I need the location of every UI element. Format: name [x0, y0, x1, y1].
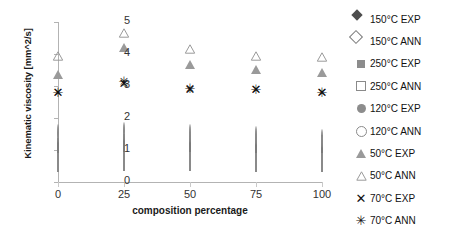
legend-label: 250°C ANN: [370, 81, 421, 92]
data-point: [119, 28, 130, 38]
marker-circle-open: [255, 126, 257, 145]
legend-marker: ✕: [352, 192, 370, 205]
data-point: [317, 52, 328, 62]
legend-marker: [352, 37, 370, 47]
legend-item[interactable]: 150°C ANN: [352, 30, 452, 52]
marker-star: ✳: [53, 85, 64, 100]
y-tick-label: 0: [100, 174, 130, 186]
data-point: ✳: [53, 86, 64, 99]
marker-star: ✳: [251, 82, 262, 97]
legend-marker: [352, 167, 370, 185]
y-tick-label: 2: [100, 110, 130, 122]
x-tick: [256, 182, 257, 187]
legend-label: 70°C ANN: [370, 215, 416, 226]
legend-item[interactable]: 120°C ANN: [352, 120, 452, 142]
marker-square-open: [57, 153, 59, 172]
legend-label: 150°C ANN: [370, 36, 421, 47]
legend-label: 50°C EXP: [370, 148, 415, 159]
marker-circle-filled: [357, 104, 366, 113]
chart-legend: 150°C EXP150°C ANN250°C EXP250°C ANN120°…: [352, 8, 452, 232]
data-point: [185, 44, 196, 54]
x-axis-title: composition percentage: [58, 205, 322, 216]
legend-marker: [352, 81, 370, 91]
legend-marker: [352, 149, 370, 158]
legend-marker: [352, 60, 370, 68]
marker-diamond-filled: [351, 10, 362, 21]
x-tick-label: 25: [104, 188, 144, 200]
legend-item[interactable]: 250°C EXP: [352, 53, 452, 75]
marker-square-filled: [357, 60, 365, 68]
x-tick-label: 75: [236, 188, 276, 200]
marker-triangle-open: [251, 47, 262, 64]
marker-triangle-open: [356, 167, 367, 185]
x-tick-label: 100: [302, 188, 342, 200]
legend-label: 70°C EXP: [370, 193, 415, 204]
legend-marker: [352, 126, 370, 137]
y-tick-label: 5: [100, 14, 130, 26]
legend-item[interactable]: 120°C EXP: [352, 98, 452, 120]
marker-circle-open: [356, 126, 367, 137]
marker-star: ✳: [356, 214, 367, 227]
legend-marker: [352, 104, 370, 113]
marker-triangle-open: [53, 47, 64, 64]
y-axis-title: Kinematic viscosity [mm^2/s]: [22, 9, 33, 179]
data-point: ✳: [251, 83, 262, 96]
legend-marker: ✳: [352, 214, 370, 227]
marker-star: ✳: [185, 80, 196, 95]
marker-triangle-open: [119, 24, 130, 41]
marker-x: ✕: [356, 192, 367, 205]
marker-triangle-open: [317, 48, 328, 65]
y-tick: [54, 118, 59, 119]
chart-figure: Kinematic viscosity [mm^2/s] ✕✕✕✕✕✳✳✳✳✳ …: [0, 0, 454, 241]
marker-square-open: [321, 153, 323, 172]
legend-item[interactable]: ✳70°C ANN: [352, 210, 452, 232]
marker-triangle-open: [185, 40, 196, 57]
marker-diamond-open: [349, 30, 363, 44]
legend-label: 120°C EXP: [370, 103, 421, 114]
marker-square-open: [255, 153, 257, 172]
y-tick-label: 3: [100, 78, 130, 90]
y-tick-label: 4: [100, 46, 130, 58]
legend-label: 50°C ANN: [370, 170, 416, 181]
marker-circle-open: [321, 129, 323, 148]
x-tick-label: 0: [38, 188, 78, 200]
data-point: [251, 51, 262, 61]
plot-area: ✕✕✕✕✕✳✳✳✳✳: [58, 22, 322, 182]
marker-circle-open: [189, 124, 191, 143]
x-tick: [322, 182, 323, 187]
x-tick: [190, 182, 191, 187]
marker-circle-open: [57, 124, 59, 143]
y-tick: [54, 22, 59, 23]
data-point: ✳: [185, 81, 196, 94]
legend-item[interactable]: 50°C ANN: [352, 165, 452, 187]
data-point: [53, 51, 64, 61]
data-point: ✳: [317, 86, 328, 99]
legend-marker: [352, 15, 370, 23]
marker-square-open: [123, 152, 125, 171]
marker-triangle-filled: [356, 149, 366, 158]
legend-label: 120°C ANN: [370, 126, 421, 137]
marker-square-open: [356, 81, 366, 91]
legend-item[interactable]: ✕70°C EXP: [352, 187, 452, 209]
marker-circle-open: [123, 122, 125, 141]
marker-star: ✳: [317, 85, 328, 100]
legend-item[interactable]: 50°C EXP: [352, 142, 452, 164]
x-tick: [58, 182, 59, 187]
legend-item[interactable]: 150°C EXP: [352, 8, 452, 30]
x-tick-label: 50: [170, 188, 210, 200]
legend-label: 150°C EXP: [370, 14, 421, 25]
y-tick-label: 1: [100, 142, 130, 154]
legend-item[interactable]: 250°C ANN: [352, 75, 452, 97]
marker-square-open: [189, 152, 191, 171]
legend-label: 250°C EXP: [370, 58, 421, 69]
